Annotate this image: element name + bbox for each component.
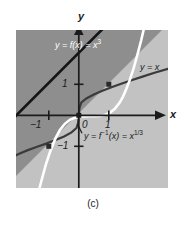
cubic-curve-label-text: y = f(x) = x <box>55 40 98 50</box>
x-tick-label-zero: 0 <box>82 120 88 130</box>
y-tick-label-neg1: −1 <box>57 141 68 151</box>
cuberoot-curve-label: y = f−1(x) = x1/3 <box>84 132 143 141</box>
x-axis-label: x <box>170 109 176 120</box>
y-tick-label-pos1: 1 <box>62 79 68 89</box>
cuberoot-exponent: 1/3 <box>134 129 143 136</box>
intersection-marker-origin <box>76 113 81 118</box>
y-axis-label: y <box>78 11 84 22</box>
cubic-curve-exponent: 3 <box>98 38 102 45</box>
intersection-marker-neg-one <box>46 144 51 149</box>
identity-line-label: y = x <box>140 63 159 72</box>
intersection-marker-one <box>106 82 111 87</box>
cuberoot-label-mid: (x) = x <box>109 131 134 141</box>
x-tick-label-neg1: −1 <box>30 120 41 130</box>
figure-container: y x −1 0 1 1 −1 y = f(x) = x3 y = x y = … <box>0 0 186 225</box>
figure-caption: (c) <box>0 198 186 209</box>
cuberoot-label-prefix: y = f <box>84 131 101 141</box>
cuberoot-inverse-exponent: −1 <box>101 129 108 136</box>
graph-svg <box>16 30 168 188</box>
plot-area <box>16 30 168 188</box>
cubic-curve-label: y = f(x) = x3 <box>55 41 101 50</box>
